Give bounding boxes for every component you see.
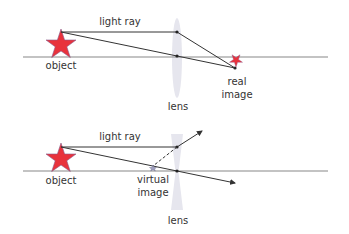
virtual-image-label-line1: virtual <box>137 173 169 186</box>
convex-lens <box>172 18 182 98</box>
real-image-label-line1: real <box>228 75 247 88</box>
top-object-label: object <box>46 59 77 72</box>
virtual-image-label-line2: image <box>137 186 168 199</box>
object-star-icon <box>46 29 76 58</box>
bottom-light-ray-label: light ray <box>99 130 141 143</box>
top-light-ray-label: light ray <box>99 15 141 28</box>
bottom-lens-label: lens <box>168 214 188 227</box>
bottom-diagram <box>23 131 328 210</box>
top-lens-label: lens <box>168 100 188 113</box>
light-ray-center <box>61 32 235 68</box>
optics-diagram <box>0 0 349 234</box>
real-image-label-line2: image <box>221 88 252 101</box>
bottom-object-label: object <box>46 174 77 187</box>
top-diagram <box>23 18 328 98</box>
